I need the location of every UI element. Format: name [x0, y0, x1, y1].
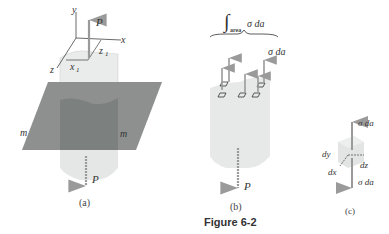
axis-x-label: x: [120, 34, 126, 45]
panel-c: σ da σ da dy dz dx (c): [322, 118, 374, 216]
panel-a: y x z x 1 z 1 P P m m (a): [20, 4, 162, 209]
integral-subscript: area: [230, 27, 241, 33]
panel-c-label: (c): [345, 206, 355, 216]
bar-lower: [60, 150, 118, 180]
section-shadow: [60, 98, 118, 150]
sigma-bottom-label: σ da: [358, 177, 374, 187]
figure-caption: Figure 6-2: [204, 216, 257, 228]
panel-a-label: (a): [79, 197, 90, 209]
integral-brace: [210, 30, 278, 37]
bar-b: [210, 77, 270, 168]
axis-z-label: z: [49, 64, 54, 75]
panel-b: ∫ area σ da σ da P (b) Figure 6-2: [204, 10, 285, 228]
z1-label: z: [98, 45, 103, 56]
plane-label-left: m: [20, 127, 27, 138]
force-p-bottom-label: P: [91, 173, 99, 185]
force-p-b-label: P: [243, 180, 251, 192]
element-force-label: σ da: [268, 46, 285, 57]
dim-dx-label: dx: [328, 167, 337, 177]
axis-x-line: [76, 38, 121, 40]
axis-y-label: y: [71, 4, 77, 15]
panel-b-label: (b): [230, 201, 242, 213]
figure-canvas: y x z x 1 z 1 P P m m (a) ∫ area σ da σ …: [0, 0, 389, 234]
integral-expression: σ da: [247, 18, 264, 29]
x1-sub: 1: [76, 66, 80, 74]
sigma-top-label: σ da: [358, 118, 374, 128]
dim-dy-label: dy: [322, 149, 331, 159]
plane-label-right: m: [120, 128, 127, 139]
z1-sub: 1: [105, 50, 109, 58]
x1-label: x: [69, 61, 75, 72]
force-p-top-label: P: [95, 16, 103, 28]
dim-dz-label: dz: [360, 160, 369, 170]
